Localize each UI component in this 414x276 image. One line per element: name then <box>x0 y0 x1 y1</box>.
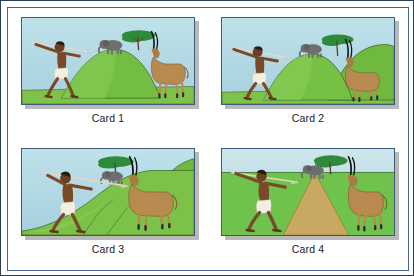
card-3-shadow <box>21 148 195 236</box>
card-cell-3: Card 3 <box>8 139 208 270</box>
figure-container: Card 1 <box>0 0 414 276</box>
card-4-illustration <box>221 148 395 236</box>
card-cell-2: Card 2 <box>208 8 408 139</box>
card-cell-4: Card 4 <box>208 139 408 270</box>
card-cell-1: Card 1 <box>8 8 208 139</box>
card-grid: Card 1 <box>7 7 409 271</box>
card-3-label: Card 3 <box>92 244 125 255</box>
card-2-shadow <box>221 17 395 105</box>
card-1-shadow <box>21 17 195 105</box>
card-4-shadow <box>221 148 395 236</box>
card-1-label: Card 1 <box>92 113 125 124</box>
card-4-label: Card 4 <box>292 244 325 255</box>
card-2-illustration <box>221 17 395 105</box>
card-2-label: Card 2 <box>292 113 325 124</box>
card-3-illustration <box>21 148 195 236</box>
card-1-illustration <box>21 17 195 105</box>
